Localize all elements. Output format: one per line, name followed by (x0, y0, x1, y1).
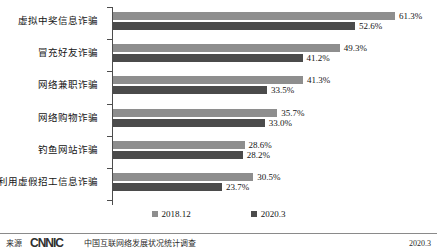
bar-value-label: 41.2% (307, 54, 330, 63)
category-label: 冒充好友诈骗 (0, 48, 98, 59)
cnnic-logo: CNNIC (30, 236, 63, 250)
bar-value-label: 52.6% (359, 22, 382, 31)
legend-item-2018[interactable]: 2018.12 (152, 210, 191, 219)
bar-2020[interactable] (113, 151, 243, 159)
category-label: 网络购物诈骗 (0, 113, 98, 124)
footer-date: 2020.3 (409, 239, 431, 248)
legend-label-2018: 2018.12 (162, 210, 191, 219)
category-label: 虚拟中奖信息诈骗 (0, 16, 98, 27)
bar-value-label: 41.3% (307, 76, 330, 85)
footer-source-label: 来源 (6, 239, 22, 248)
legend-swatch-icon-2020 (251, 211, 257, 217)
bar-2020[interactable] (113, 54, 303, 62)
footer-divider (0, 233, 437, 234)
category-label: 钓鱼网站诈骗 (0, 145, 98, 156)
bar-chart: 虚拟中奖信息诈骗61.3%52.6%冒充好友诈骗49.3%41.2%网络兼职诈骗… (0, 0, 437, 205)
bar-group: 钓鱼网站诈骗28.6%28.2% (0, 141, 437, 159)
bar-value-label: 33.5% (271, 86, 294, 95)
axis-tick (107, 104, 113, 105)
bar-value-label: 33.0% (269, 119, 292, 128)
bar-group: 网络兼职诈骗41.3%33.5% (0, 76, 437, 94)
bar-group: 利用虚假招工信息诈骗30.5%23.7% (0, 173, 437, 191)
legend-label-2020: 2020.3 (261, 210, 286, 219)
bar-value-label: 35.7% (281, 109, 304, 118)
bar-2020[interactable] (113, 119, 265, 127)
axis-tick (107, 71, 113, 72)
bar-value-label: 49.3% (344, 44, 367, 53)
bar-2020[interactable] (113, 22, 355, 30)
axis-tick (107, 168, 113, 169)
category-label: 网络兼职诈骗 (0, 80, 98, 91)
chart-page: 虚拟中奖信息诈骗61.3%52.6%冒充好友诈骗49.3%41.2%网络兼职诈骗… (0, 0, 437, 251)
footer: 来源 CNNIC 中国互联网络发展状况统计调查 2020.3 (0, 236, 437, 251)
category-label: 利用虚假招工信息诈骗 (0, 177, 98, 188)
axis-tick (107, 7, 113, 8)
axis-tick (107, 39, 113, 40)
bar-2020[interactable] (113, 86, 267, 94)
axis-tick (107, 200, 113, 201)
bar-group: 网络购物诈骗35.7%33.0% (0, 109, 437, 127)
bar-2020[interactable] (113, 183, 222, 191)
footer-source-text: 中国互联网络发展状况统计调查 (84, 239, 196, 248)
bar-2018[interactable] (113, 141, 245, 149)
bar-value-label: 61.3% (399, 12, 422, 21)
chart-legend: 2018.12 2020.3 (0, 206, 437, 222)
bar-2018[interactable] (113, 173, 253, 181)
bar-2018[interactable] (113, 109, 277, 117)
bar-group: 冒充好友诈骗49.3%41.2% (0, 44, 437, 62)
legend-item-2020[interactable]: 2020.3 (251, 210, 286, 219)
bar-value-label: 30.5% (257, 173, 280, 182)
bar-2018[interactable] (113, 76, 303, 84)
bar-group: 虚拟中奖信息诈骗61.3%52.6% (0, 12, 437, 30)
bar-value-label: 28.6% (249, 141, 272, 150)
bar-2018[interactable] (113, 44, 340, 52)
bar-value-label: 23.7% (226, 183, 249, 192)
legend-swatch-icon-2018 (152, 211, 158, 217)
bar-value-label: 28.2% (247, 151, 270, 160)
bar-2018[interactable] (113, 12, 395, 20)
axis-tick (107, 136, 113, 137)
